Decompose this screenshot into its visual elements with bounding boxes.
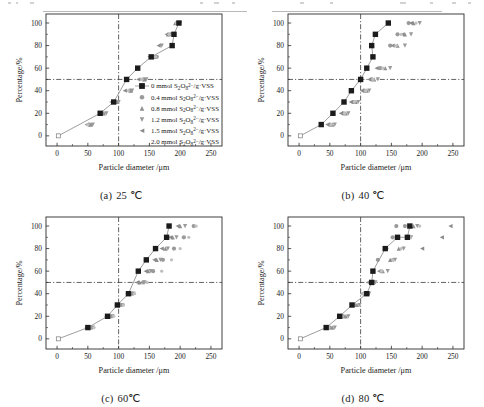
y-tick-label: 80 (35, 41, 43, 50)
x-tick-label: 200 (175, 352, 186, 361)
data-point (136, 268, 141, 273)
data-point (166, 223, 171, 228)
y-tick-label: 40 (35, 86, 43, 95)
y-axis-title: Percentage/% (15, 57, 24, 102)
x-tick-label: 50 (84, 149, 92, 158)
x-tick-label: 0 (55, 352, 59, 361)
data-point (400, 33, 403, 36)
chart-a: 050100150200250020406080100Particle diam… (0, 0, 242, 203)
panel-c: 050100150200250020406080100Particle diam… (0, 203, 242, 406)
data-point (323, 325, 328, 330)
data-point (111, 99, 116, 104)
data-point (418, 224, 421, 227)
y-tick-label: 100 (31, 19, 42, 28)
y-tick-label: 60 (277, 64, 285, 73)
x-tick-label: 100 (113, 352, 124, 361)
data-point (133, 292, 136, 295)
data-point (149, 54, 154, 59)
plot-area-c: 050100150200250020406080100Particle diam… (0, 203, 242, 406)
data-point (122, 303, 125, 306)
x-tick-label: 100 (113, 149, 124, 158)
chart-c: 050100150200250020406080100Particle diam… (0, 203, 242, 406)
y-tick-label: 80 (277, 244, 285, 253)
data-point (381, 67, 384, 70)
y-tick-label: 20 (277, 312, 285, 321)
figure-panel-grid: 050100150200250020406080100Particle diam… (0, 0, 484, 407)
y-tick-label: 60 (277, 267, 285, 276)
y-axis-title: Percentage/% (257, 260, 266, 305)
x-tick-label: 150 (386, 149, 397, 158)
y-tick-label: 100 (273, 19, 284, 28)
plot-area-d: 050100150200250020406080100Particle diam… (242, 203, 484, 406)
data-point (169, 43, 174, 48)
data-point (298, 337, 302, 341)
data-point (56, 134, 60, 138)
x-tick-label: 0 (297, 149, 301, 158)
data-point (56, 337, 60, 341)
x-tick-label: 50 (326, 149, 334, 158)
data-point (414, 21, 417, 24)
data-point (391, 258, 394, 261)
panel-caption-value-b: 40 ℃ (358, 190, 384, 201)
plot-frame (46, 217, 222, 349)
x-tick-label: 150 (144, 352, 155, 361)
data-point (126, 291, 131, 296)
data-point (369, 43, 374, 48)
data-point (329, 123, 332, 126)
data-point (373, 32, 378, 37)
y-tick-label: 80 (35, 244, 43, 253)
y-tick-label: 80 (277, 41, 285, 50)
y-axis-title: Percentage/% (15, 260, 24, 305)
data-point (164, 235, 169, 240)
x-tick-label: 250 (447, 352, 458, 361)
data-point (115, 302, 120, 307)
x-axis-title: Particle diameter /μm (341, 366, 412, 375)
data-point (370, 268, 375, 273)
y-axis-title: Percentage/% (257, 57, 266, 102)
data-point (154, 55, 157, 58)
y-tick-label: 40 (277, 289, 285, 298)
data-point (319, 122, 324, 127)
y-tick-label: 0 (38, 334, 42, 343)
x-tick-label: 200 (175, 149, 186, 158)
data-point (170, 258, 173, 261)
data-point (92, 326, 95, 329)
y-tick-label: 100 (31, 222, 42, 231)
data-point (298, 134, 302, 138)
data-point (140, 78, 143, 81)
y-tick-label: 60 (35, 64, 43, 73)
data-point (369, 280, 374, 285)
chart-b: 050100150200250020406080100Particle diam… (242, 0, 484, 203)
data-point (167, 33, 170, 36)
data-point (330, 111, 335, 116)
data-point (349, 88, 354, 93)
data-point (85, 325, 90, 330)
y-tick-label: 20 (35, 312, 43, 321)
x-tick-label: 200 (417, 149, 428, 158)
x-tick-label: 50 (84, 352, 92, 361)
x-tick-label: 50 (326, 352, 334, 361)
data-point (105, 314, 110, 319)
data-point (364, 65, 369, 70)
y-tick-label: 100 (273, 222, 284, 231)
x-axis-title: Particle diameter /μm (341, 163, 412, 172)
data-point (343, 112, 346, 115)
data-point (145, 281, 148, 284)
panel-caption-value-d: 80 ℃ (358, 393, 384, 404)
panel-caption-label-d: (d) (342, 393, 355, 404)
data-point (160, 270, 163, 273)
data-point (364, 89, 367, 92)
y-tick-label: 40 (277, 86, 285, 95)
x-tick-label: 200 (417, 352, 428, 361)
panel-b: 050100150200250020406080100Particle diam… (242, 0, 484, 203)
panel-caption-a: (a)25 ℃ (0, 189, 242, 201)
panel-caption-label-c: (c) (101, 393, 113, 404)
data-point (112, 315, 115, 318)
x-axis-title: Particle diameter /μm (99, 163, 170, 172)
panel-a: 050100150200250020406080100Particle diam… (0, 0, 242, 203)
data-point (187, 236, 190, 239)
legend-marker-0 (139, 83, 145, 89)
data-point (124, 77, 129, 82)
data-point (370, 54, 375, 59)
data-point (394, 224, 398, 228)
